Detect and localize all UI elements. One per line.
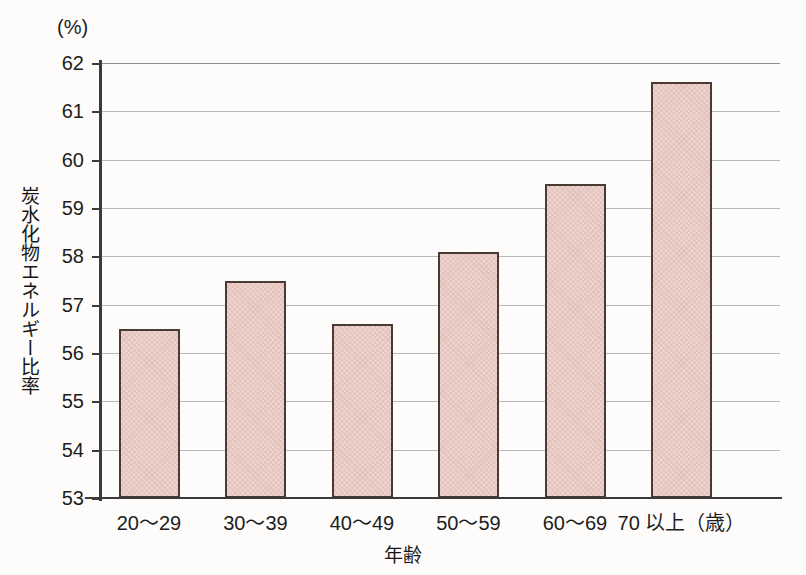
y-tick-mark-62 <box>92 63 101 65</box>
y-tick-mark-61 <box>92 111 101 113</box>
y-tick-label-61: 61 <box>38 100 84 123</box>
x-tick-label-1: 30～39 <box>223 507 288 536</box>
bar <box>438 252 499 499</box>
y-axis-title: 炭水化物エネルギー比率 <box>9 165 39 415</box>
bar <box>545 184 606 498</box>
y-tick-label-57: 57 <box>38 293 84 316</box>
x-tick-label-0: 20～29 <box>117 507 182 536</box>
bar-chart-figure: (%) 炭水化物エネルギー比率 53545556575859606162 20～… <box>0 0 806 575</box>
y-tick-label-55: 55 <box>38 390 84 413</box>
y-tick-label-56: 56 <box>38 342 84 365</box>
y-tick-label-54: 54 <box>38 438 84 461</box>
x-axis-title: 年齢 <box>0 540 806 567</box>
y-tick-label-59: 59 <box>38 197 84 220</box>
x-tick-label-4: 60～69 <box>543 507 608 536</box>
y-tick-mark-55 <box>92 401 101 403</box>
y-axis-tick-labels: 53545556575859606162 <box>38 0 84 575</box>
y-tick-mark-60 <box>92 160 101 162</box>
x-axis-tick-labels: 20～2930～3940～4950～5960～6970 以上（歳） <box>0 507 806 537</box>
gridline-62 <box>101 63 780 64</box>
bar <box>119 329 180 498</box>
y-tick-label-60: 60 <box>38 148 84 171</box>
bar <box>651 82 712 498</box>
bar <box>225 281 286 499</box>
x-tick-label-5: 70 以上（歳） <box>618 507 746 536</box>
y-tick-mark-53 <box>92 498 101 500</box>
y-tick-mark-57 <box>92 305 101 307</box>
y-axis-spine <box>99 60 102 501</box>
y-tick-mark-54 <box>92 450 101 452</box>
y-tick-label-58: 58 <box>38 245 84 268</box>
plot-area <box>101 63 780 498</box>
y-tick-mark-59 <box>92 208 101 210</box>
y-tick-mark-56 <box>92 353 101 355</box>
x-tick-label-3: 50～59 <box>436 507 501 536</box>
y-tick-mark-58 <box>92 256 101 258</box>
x-axis-spine <box>85 497 782 499</box>
x-tick-label-2: 40～49 <box>330 507 395 536</box>
y-tick-label-62: 62 <box>38 52 84 75</box>
bar <box>332 324 393 498</box>
